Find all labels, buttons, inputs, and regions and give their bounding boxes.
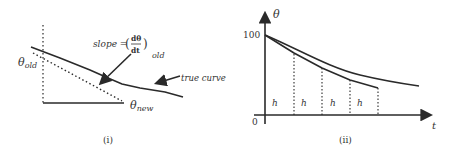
theta-new-label: θnew xyxy=(130,99,154,113)
figure-canvas: θold θnew slope = ( dθ dt ) old true cur… xyxy=(0,0,455,156)
panel-ii: θ t 100 0 h h h h (ii) xyxy=(243,8,437,145)
origin-label: 0 xyxy=(252,117,258,127)
x-axis-label: t xyxy=(432,120,437,131)
theta-old-label: θold xyxy=(18,56,37,70)
panel-i: θold θnew slope = ( dθ dt ) old true cur… xyxy=(18,25,226,145)
slope-numerator: dθ xyxy=(131,34,141,43)
true-curve-label: true curve xyxy=(181,73,226,83)
true-solution-curve xyxy=(265,35,419,86)
slope-paren-open: ( xyxy=(125,37,130,51)
caption-ii: (ii) xyxy=(339,135,352,145)
step-label-3: h xyxy=(330,98,336,108)
caption-i: (i) xyxy=(103,135,113,145)
y-axis-label: θ xyxy=(273,8,280,21)
slope-label: slope = xyxy=(93,39,127,49)
tangent-dotted-line xyxy=(33,53,122,101)
step-label-4: h xyxy=(357,98,363,108)
slope-subscript: old xyxy=(152,51,165,60)
true-curve-arrow xyxy=(157,76,180,83)
slope-denominator: dt xyxy=(131,46,140,55)
step-label-1: h xyxy=(272,98,278,108)
step-label-2: h xyxy=(301,98,307,108)
slope-paren-close: ) xyxy=(143,37,148,51)
y-tick-100: 100 xyxy=(243,30,260,40)
slope-arrow xyxy=(101,54,131,83)
